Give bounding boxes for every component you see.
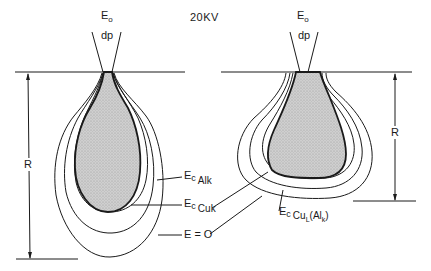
- right-range-arrowhead-bottom: [393, 194, 397, 201]
- right-leader-from-cuk: [212, 172, 268, 208]
- label-cul-sub2: Cu: [293, 210, 306, 221]
- label-ec-cuk-sub2: Cuk: [198, 203, 216, 214]
- left-range-arrowhead-top: [26, 73, 30, 80]
- right-label-ec-cul-alk: EcCuL(Alk): [279, 206, 329, 217]
- left-beam-edge-right: [112, 32, 121, 72]
- right-range-label: R: [391, 126, 399, 139]
- right-leader-from-e-zero: [210, 196, 262, 234]
- right-range-arrowhead-top: [393, 73, 397, 80]
- right-beam-energy-sub: o: [304, 15, 308, 24]
- label-cul-paren-close: ): [325, 210, 328, 221]
- left-beam-energy-sub: o: [108, 15, 112, 24]
- left-leader-alk: [157, 177, 182, 180]
- left-range-label: R: [24, 158, 32, 171]
- voltage-label: 20KV: [190, 12, 219, 23]
- left-label-ec-cuk: EcCuk: [184, 198, 216, 209]
- label-ec-cuk-sub1: c: [191, 201, 196, 211]
- left-panel: [15, 32, 185, 259]
- left-label-e-zero: E = O: [184, 229, 212, 240]
- diagram-canvas: [0, 0, 431, 271]
- left-range-arrowhead-bottom: [28, 252, 32, 259]
- label-cul-sub1: c: [286, 209, 291, 219]
- label-ec-alk-sub2: Alk: [198, 175, 212, 186]
- label-cul-sub3: L: [306, 216, 310, 223]
- left-label-ec-alk: EcAlk: [184, 170, 212, 181]
- right-beam-dp-label: dp: [298, 30, 310, 41]
- label-cul-paren: (Al: [310, 210, 322, 221]
- left-beam-energy-label: Eo: [101, 10, 113, 21]
- left-beam-dp-label: dp: [101, 30, 113, 41]
- right-panel: [210, 32, 416, 234]
- right-interaction-volume: [268, 72, 346, 178]
- label-ec-alk-sub1: c: [191, 173, 196, 183]
- left-interaction-volume: [75, 72, 140, 212]
- right-beam-energy-label: Eo: [297, 10, 309, 21]
